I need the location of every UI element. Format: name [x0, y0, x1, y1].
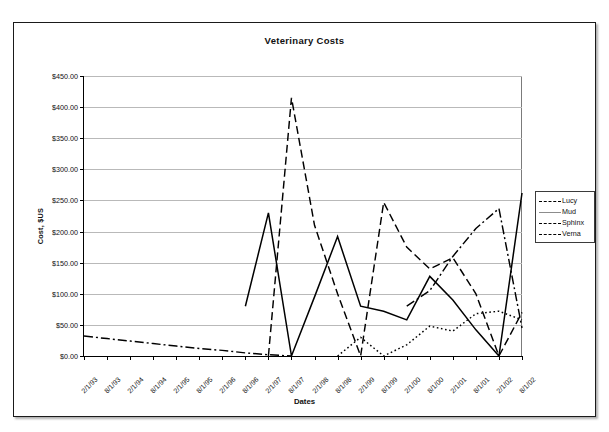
x-tick-mark	[130, 356, 131, 360]
x-tick-label: 2/1/98	[310, 376, 329, 395]
x-tick-label: 2/1/00	[403, 376, 422, 395]
x-tick-label: 8/1/97	[287, 376, 306, 395]
x-tick-label: 2/1/99	[357, 376, 376, 395]
x-tick-label: 2/1/01	[449, 376, 468, 395]
legend-item-sphinx[interactable]: Sphinx	[539, 217, 592, 228]
plot-area: $0.00$50.00$100.00$150.00$200.00$250.00$…	[83, 76, 522, 357]
x-tick-label: 2/1/94	[126, 376, 145, 395]
y-tick-label: $100.00	[52, 289, 78, 298]
x-tick-label: 8/1/01	[472, 376, 491, 395]
x-tick-mark	[407, 356, 408, 360]
y-tick-label: $0.00	[60, 352, 78, 361]
y-tick-label: $450.00	[52, 72, 78, 81]
x-tick-label: 8/1/02	[518, 376, 537, 395]
x-tick-label: 8/1/94	[149, 376, 168, 395]
x-tick-label: 2/1/95	[172, 376, 191, 395]
y-tick-label: $400.00	[52, 103, 78, 112]
chart-legend: LucyMudSphinxVerna	[535, 191, 595, 243]
x-tick-label: 2/1/93	[80, 376, 99, 395]
chart-title: Veterinary Costs	[14, 35, 595, 46]
x-tick-mark	[199, 356, 200, 360]
x-tick-mark	[176, 356, 177, 360]
legend-swatch-verna	[539, 230, 561, 237]
x-tick-label: 8/1/96	[241, 376, 260, 395]
legend-swatch-mud	[539, 208, 561, 215]
y-tick-label: $150.00	[52, 258, 78, 267]
legend-item-verna[interactable]: Verna	[539, 228, 592, 239]
legend-swatch-sphinx	[539, 219, 561, 226]
x-tick-mark	[245, 356, 246, 360]
series-line-verna	[84, 336, 291, 356]
x-tick-mark	[84, 356, 85, 360]
legend-label: Sphinx	[562, 218, 584, 227]
x-tick-mark	[476, 356, 477, 360]
x-axis-title: Dates	[14, 397, 595, 406]
chart-frame: Veterinary Costs Cost, $US $0.00$50.00$1…	[13, 22, 596, 417]
x-tick-mark	[315, 356, 316, 360]
x-tick-label: 8/1/99	[380, 376, 399, 395]
x-tick-mark	[153, 356, 154, 360]
x-tick-mark	[268, 356, 269, 360]
y-tick-label: $350.00	[52, 134, 78, 143]
x-tick-mark	[361, 356, 362, 360]
y-tick-label: $200.00	[52, 227, 78, 236]
series-line-mud	[245, 193, 522, 356]
y-tick-label: $250.00	[52, 196, 78, 205]
x-tick-mark	[430, 356, 431, 360]
x-tick-mark	[453, 356, 454, 360]
y-tick-label: $300.00	[52, 165, 78, 174]
x-tick-mark	[522, 356, 523, 360]
series-line-sphinx	[338, 311, 522, 356]
x-tick-mark	[222, 356, 223, 360]
legend-label: Mud	[562, 207, 576, 216]
x-tick-label: 8/1/95	[195, 376, 214, 395]
legend-item-mud[interactable]: Mud	[539, 206, 592, 217]
x-tick-mark	[338, 356, 339, 360]
y-axis-title: Cost, $US	[36, 208, 50, 244]
series-lines	[84, 76, 522, 356]
x-tick-label: 2/1/96	[218, 376, 237, 395]
legend-label: Verna	[562, 229, 581, 238]
legend-item-lucy[interactable]: Lucy	[539, 195, 592, 206]
x-tick-label: 2/1/97	[264, 376, 283, 395]
legend-swatch-lucy	[539, 197, 561, 204]
x-tick-label: 2/1/02	[495, 376, 514, 395]
legend-label: Lucy	[562, 196, 577, 205]
x-tick-label: 8/1/00	[426, 376, 445, 395]
y-tick-label: $50.00	[56, 320, 78, 329]
x-tick-label: 8/1/93	[103, 376, 122, 395]
x-tick-label: 8/1/98	[334, 376, 353, 395]
x-tick-mark	[107, 356, 108, 360]
